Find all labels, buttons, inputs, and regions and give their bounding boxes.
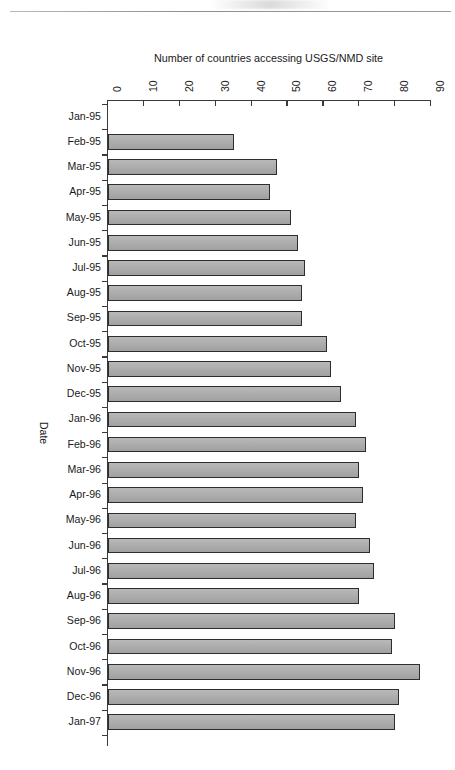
x-tick-label-80: 80 — [398, 80, 410, 92]
y-tick-Mar-96 — [102, 457, 108, 458]
bar-Feb-95 — [108, 134, 234, 150]
y-tick-label-Aug-95: Aug-95 — [67, 286, 101, 298]
y-tick-Mar-95 — [102, 154, 108, 155]
scan-artifact — [210, 0, 330, 9]
y-tick-Feb-95 — [102, 129, 108, 130]
bar-Sep-95 — [108, 311, 302, 327]
bar-Nov-96 — [108, 664, 420, 680]
y-tick-label-Nov-95: Nov-95 — [67, 362, 101, 374]
x-axis-line — [107, 100, 430, 101]
bar-May-96 — [108, 513, 356, 529]
y-tick-Dec-95 — [102, 382, 108, 383]
x-tick-label-40: 40 — [255, 80, 267, 92]
y-tick-Aug-96 — [102, 583, 108, 584]
y-tick-label-Dec-96: Dec-96 — [67, 690, 101, 702]
bar-Sep-96 — [108, 613, 395, 629]
y-tick-Jan-96 — [102, 407, 108, 408]
page-divider-rule — [10, 11, 451, 12]
y-tick-Jan-95 — [102, 104, 108, 105]
y-tick-Jul-96 — [102, 558, 108, 559]
x-tick-label-20: 20 — [183, 80, 195, 92]
bar-Jul-95 — [108, 260, 305, 276]
bar-Jan-96 — [108, 412, 356, 428]
y-tick-Oct-95 — [102, 331, 108, 332]
y-tick-Aug-95 — [102, 281, 108, 282]
caption-line-1: Fig. 10.2 The number of countries from w… — [0, 24, 1, 764]
bar-Aug-96 — [108, 588, 359, 604]
y-tick-May-95 — [102, 205, 108, 206]
y-tick-label-Feb-96: Feb-96 — [67, 438, 101, 450]
bar-Apr-96 — [108, 487, 363, 503]
bar-Oct-95 — [108, 336, 327, 352]
x-tick-label-60: 60 — [326, 80, 338, 92]
y-tick-Jan-97 — [102, 710, 108, 711]
x-tick-label-30: 30 — [219, 80, 231, 92]
y-tick-Feb-96 — [102, 432, 108, 433]
bar-Mar-96 — [108, 462, 359, 478]
y-tick-label-Sep-95: Sep-95 — [67, 311, 101, 323]
y-tick-label-Mar-95: Mar-95 — [67, 160, 101, 172]
x-tick-60 — [322, 100, 323, 106]
x-tick-40 — [251, 100, 252, 106]
y-tick-Nov-96 — [102, 659, 108, 660]
y-tick-label-Oct-96: Oct-96 — [69, 640, 101, 652]
x-tick-label-70: 70 — [362, 80, 374, 92]
figure-page: Fig. 10.2 The number of countries from w… — [0, 0, 455, 770]
bar-Dec-95 — [108, 386, 341, 402]
y-tick-label-Aug-96: Aug-96 — [67, 589, 101, 601]
bar-Oct-96 — [108, 639, 392, 655]
y-tick-label-Jul-96: Jul-96 — [72, 564, 101, 576]
y-tick-Jul-95 — [102, 255, 108, 256]
y-tick-Nov-95 — [102, 356, 108, 357]
y-tick-Sep-95 — [102, 306, 108, 307]
y-tick-label-Nov-96: Nov-96 — [67, 665, 101, 677]
plot-area: 0102030405060708090 Jan-95Feb-95Mar-95Ap… — [107, 100, 430, 746]
bar-Dec-96 — [108, 689, 399, 705]
bar-Feb-96 — [108, 437, 366, 453]
x-tick-20 — [179, 100, 180, 106]
x-tick-90 — [430, 100, 431, 106]
y-tick-end — [102, 735, 108, 736]
bar-Aug-95 — [108, 285, 302, 301]
y-tick-label-May-95: May-95 — [66, 211, 101, 223]
bar-Nov-95 — [108, 361, 331, 377]
y-tick-label-Jul-95: Jul-95 — [72, 261, 101, 273]
bar-Jun-96 — [108, 538, 370, 554]
y-tick-Oct-96 — [102, 634, 108, 635]
x-tick-80 — [394, 100, 395, 106]
bar-Mar-95 — [108, 159, 277, 175]
y-tick-label-Oct-95: Oct-95 — [69, 337, 101, 349]
x-tick-30 — [215, 100, 216, 106]
x-tick-label-0: 0 — [111, 86, 123, 92]
y-tick-Jun-96 — [102, 533, 108, 534]
x-tick-10 — [143, 100, 144, 106]
y-tick-label-Feb-95: Feb-95 — [67, 135, 101, 147]
y-tick-label-Dec-95: Dec-95 — [67, 387, 101, 399]
y-tick-label-Jan-97: Jan-97 — [69, 715, 101, 727]
y-tick-label-Mar-96: Mar-96 — [67, 463, 101, 475]
bar-Jul-96 — [108, 563, 374, 579]
figure-caption: Fig. 10.2 The number of countries from w… — [0, 24, 34, 764]
bar-chart: Number of countries accessing USGS/NMD s… — [40, 24, 455, 770]
y-tick-May-96 — [102, 508, 108, 509]
x-tick-label-10: 10 — [147, 80, 159, 92]
y-tick-label-Jan-95: Jan-95 — [69, 110, 101, 122]
y-tick-label-May-96: May-96 — [66, 513, 101, 525]
x-tick-label-50: 50 — [290, 80, 302, 92]
bar-Jan-97 — [108, 714, 395, 730]
y-tick-label-Apr-95: Apr-95 — [69, 185, 101, 197]
y-tick-label-Sep-96: Sep-96 — [67, 614, 101, 626]
y-tick-label-Jun-95: Jun-95 — [69, 236, 101, 248]
y-tick-label-Jun-96: Jun-96 — [69, 539, 101, 551]
y-tick-Apr-95 — [102, 180, 108, 181]
bar-May-95 — [108, 210, 291, 226]
y-tick-Dec-96 — [102, 684, 108, 685]
y-axis-title: Date — [38, 422, 50, 444]
x-axis-title: Number of countries accessing USGS/NMD s… — [107, 52, 430, 64]
y-tick-Apr-96 — [102, 483, 108, 484]
y-tick-Jun-95 — [102, 230, 108, 231]
x-tick-50 — [286, 100, 287, 106]
bar-Jun-95 — [108, 235, 298, 251]
y-tick-Sep-96 — [102, 609, 108, 610]
y-tick-label-Apr-96: Apr-96 — [69, 488, 101, 500]
